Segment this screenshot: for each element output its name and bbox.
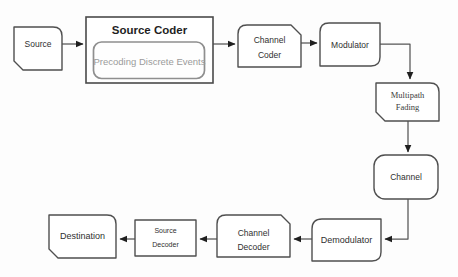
channel-decoder-block: Channel Decoder	[217, 215, 290, 257]
diagram-page: Source Source Coder Precoding Discrete E…	[0, 0, 458, 277]
multipath-fading-block: Multipath Fading	[376, 83, 439, 121]
multipath-fading-label-line1: Multipath	[391, 90, 425, 100]
precoding-subblock-label: Precoding Discrete Events	[94, 56, 206, 67]
demodulator-label: Demodulator	[321, 235, 373, 245]
channel-block: Channel	[374, 155, 438, 199]
destination-block: Destination	[49, 215, 116, 258]
channel-coder-block: Channel Coder	[238, 25, 301, 67]
source-block: Source	[14, 27, 62, 70]
source-decoder-shape	[135, 220, 196, 256]
modulator-block: Modulator	[320, 23, 380, 66]
source-decoder-label-line2: Decoder	[152, 241, 179, 248]
channel-coder-label-line2: Coder	[258, 50, 281, 60]
channel-decoder-label-line2: Decoder	[237, 242, 269, 252]
channel-coder-label-line1: Channel	[254, 35, 286, 45]
destination-label: Destination	[60, 231, 105, 241]
edge-modulator-to-multipath-fading	[380, 44, 410, 79]
source-decoder-label-line1: Source	[154, 227, 176, 234]
modulator-label: Modulator	[331, 40, 369, 50]
channel-coder-shape	[238, 25, 301, 67]
demodulator-block: Demodulator	[312, 219, 381, 261]
channel-label: Channel	[390, 172, 422, 182]
multipath-fading-label-line2: Fading	[396, 102, 420, 112]
source-coder-block: Source Coder Precoding Discrete Events	[86, 17, 213, 83]
source-decoder-block: Source Decoder	[135, 220, 196, 256]
channel-decoder-label-line1: Channel	[238, 228, 270, 238]
edge-channel-to-demodulator	[385, 199, 408, 239]
diagram-canvas: Source Source Coder Precoding Discrete E…	[0, 0, 458, 277]
source-label: Source	[25, 39, 52, 49]
source-coder-title: Source Coder	[112, 24, 188, 36]
source-shape	[14, 27, 62, 70]
